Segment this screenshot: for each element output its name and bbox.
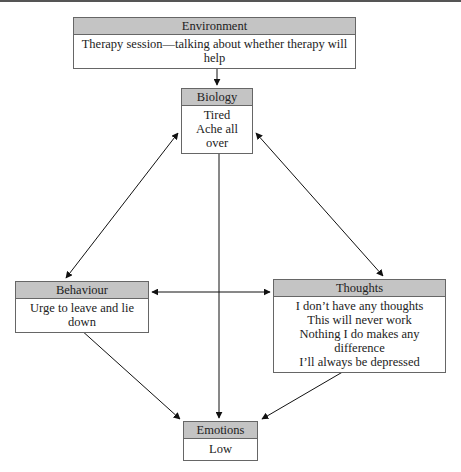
arrow-behaviour-emotions <box>70 320 180 419</box>
arrow-biology-behaviour <box>66 133 178 278</box>
node-emotions: Emotions Low <box>183 421 258 461</box>
node-environment-title: Environment <box>74 18 355 35</box>
node-biology-line: Tired <box>185 108 249 122</box>
node-thoughts: Thoughts I don’t have any thoughts This … <box>273 279 446 373</box>
node-biology: Biology Tired Ache all over <box>181 88 253 154</box>
node-emotions-title: Emotions <box>184 422 257 439</box>
node-biology-title: Biology <box>182 89 252 106</box>
arrow-biology-thoughts <box>256 133 383 276</box>
node-behaviour: Behaviour Urge to leave and lie down <box>15 281 149 333</box>
node-behaviour-title: Behaviour <box>16 282 148 299</box>
node-thoughts-line: This will never work <box>277 313 442 327</box>
node-environment: Environment Therapy session—talking abou… <box>73 17 356 69</box>
node-biology-line: Ache all over <box>185 122 249 150</box>
node-emotions-line: Low <box>187 442 254 456</box>
arrows-layer <box>0 0 461 472</box>
node-behaviour-line: Urge to leave and lie down <box>19 301 145 329</box>
node-thoughts-title: Thoughts <box>274 280 445 297</box>
node-thoughts-line: I’ll always be depressed <box>277 355 442 369</box>
node-environment-line: Therapy session—talking about whether th… <box>77 37 352 65</box>
node-thoughts-line: I don’t have any thoughts <box>277 299 442 313</box>
node-thoughts-line: Nothing I do makes any difference <box>277 327 442 355</box>
